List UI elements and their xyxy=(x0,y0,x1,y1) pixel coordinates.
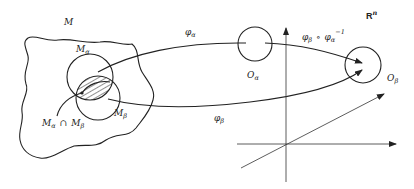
label-intersection: Mα∩Mβ xyxy=(41,118,84,130)
label-m: M xyxy=(63,17,74,27)
label-m-alpha: Mα xyxy=(75,44,90,56)
o-beta-circle xyxy=(345,47,381,83)
label-transition-map: φβ∘φα−1 xyxy=(302,28,345,44)
z-axis xyxy=(241,94,384,168)
o-alpha-circle xyxy=(238,27,272,61)
phi-beta-arrow xyxy=(108,70,362,107)
label-phi-beta: φβ xyxy=(214,113,224,125)
phi-alpha-arrow xyxy=(98,43,246,72)
label-o-alpha: Oα xyxy=(247,70,259,82)
label-o-beta: Oβ xyxy=(387,73,398,85)
label-rn: Rn xyxy=(366,9,378,21)
chart-diagram: M Mα Mβ Mα∩Mβ φα φβ Oα Oβ φβ∘φα−1 Rn xyxy=(0,0,414,189)
label-phi-alpha: φα xyxy=(185,27,196,39)
label-m-beta: Mβ xyxy=(113,108,127,120)
